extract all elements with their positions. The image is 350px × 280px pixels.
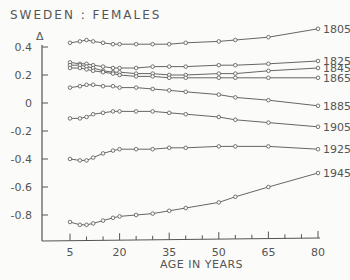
svg-text:-0.4: -0.4: [11, 153, 32, 166]
svg-text:1805: 1805: [323, 23, 350, 36]
svg-text:-0.8: -0.8: [11, 209, 32, 222]
svg-text:65: 65: [261, 246, 275, 259]
svg-text:1925: 1925: [323, 143, 350, 156]
svg-text:0: 0: [25, 97, 32, 110]
svg-text:0.2: 0.2: [15, 69, 33, 82]
svg-text:-0.2: -0.2: [11, 125, 32, 138]
svg-text:-0.6: -0.6: [11, 181, 32, 194]
svg-text:Δ: Δ: [36, 30, 44, 43]
svg-text:20: 20: [113, 246, 127, 259]
svg-text:1885: 1885: [323, 100, 350, 113]
svg-text:0.4: 0.4: [15, 41, 33, 54]
svg-text:1945: 1945: [323, 167, 350, 180]
svg-text:1905: 1905: [323, 121, 350, 134]
svg-text:5: 5: [67, 246, 74, 259]
x-axis-label: AGE IN YEARS: [160, 258, 243, 271]
line-chart: Δ0.40.20-0.2-0.4-0.6-0.85203550658018051…: [0, 0, 350, 280]
svg-text:1865: 1865: [323, 72, 350, 85]
svg-text:80: 80: [311, 246, 325, 259]
